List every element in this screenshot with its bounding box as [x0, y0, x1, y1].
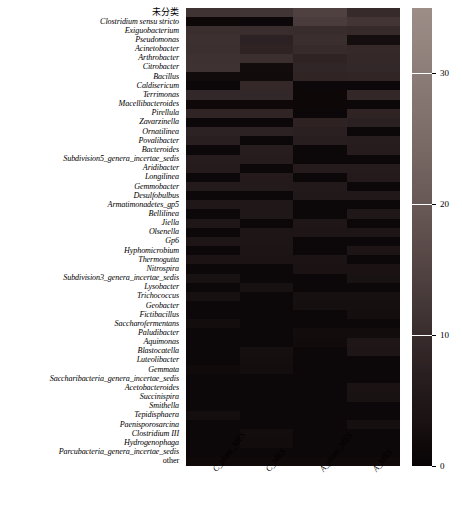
- heatmap-cell[interactable]: [347, 191, 401, 200]
- heatmap-cell[interactable]: [240, 54, 294, 63]
- heatmap-cell[interactable]: [240, 328, 294, 337]
- heatmap-cell[interactable]: [186, 145, 240, 154]
- heatmap-cell[interactable]: [186, 127, 240, 136]
- heatmap-cell[interactable]: [240, 109, 294, 118]
- heatmap-cell[interactable]: [293, 127, 347, 136]
- heatmap-cell[interactable]: [293, 338, 347, 347]
- heatmap-cell[interactable]: [186, 17, 240, 26]
- heatmap-cell[interactable]: [347, 374, 401, 383]
- heatmap-cell[interactable]: [186, 8, 240, 17]
- heatmap-cell[interactable]: [186, 383, 240, 392]
- heatmap-cell[interactable]: [186, 356, 240, 365]
- heatmap-cell[interactable]: [347, 164, 401, 173]
- heatmap-cell[interactable]: [240, 182, 294, 191]
- heatmap-cell[interactable]: [347, 383, 401, 392]
- heatmap-cell[interactable]: [293, 393, 347, 402]
- heatmap-cell[interactable]: [293, 402, 347, 411]
- heatmap-cell[interactable]: [293, 274, 347, 283]
- heatmap-cell[interactable]: [240, 17, 294, 26]
- heatmap-cell[interactable]: [293, 26, 347, 35]
- heatmap-cell[interactable]: [186, 347, 240, 356]
- heatmap-cell[interactable]: [347, 155, 401, 164]
- heatmap-cell[interactable]: [240, 356, 294, 365]
- heatmap-cell[interactable]: [240, 118, 294, 127]
- heatmap-cell[interactable]: [240, 219, 294, 228]
- heatmap-cell[interactable]: [293, 63, 347, 72]
- heatmap-cell[interactable]: [347, 420, 401, 429]
- heatmap-cell[interactable]: [240, 63, 294, 72]
- heatmap-cell[interactable]: [293, 35, 347, 44]
- heatmap-cell[interactable]: [347, 356, 401, 365]
- heatmap-cell[interactable]: [240, 228, 294, 237]
- heatmap-cell[interactable]: [240, 35, 294, 44]
- heatmap-cell[interactable]: [347, 35, 401, 44]
- heatmap-cell[interactable]: [347, 200, 401, 209]
- heatmap-cell[interactable]: [186, 109, 240, 118]
- heatmap-cell[interactable]: [347, 72, 401, 81]
- heatmap-cell[interactable]: [293, 310, 347, 319]
- heatmap-cell[interactable]: [347, 145, 401, 154]
- heatmap-cell[interactable]: [240, 319, 294, 328]
- heatmap-cell[interactable]: [293, 246, 347, 255]
- heatmap-cell[interactable]: [293, 264, 347, 273]
- heatmap-cell[interactable]: [293, 356, 347, 365]
- heatmap-cell[interactable]: [240, 81, 294, 90]
- heatmap-cell[interactable]: [240, 26, 294, 35]
- heatmap-cell[interactable]: [240, 420, 294, 429]
- heatmap-cell[interactable]: [347, 255, 401, 264]
- heatmap-cell[interactable]: [293, 136, 347, 145]
- heatmap-cell[interactable]: [186, 365, 240, 374]
- heatmap-cell[interactable]: [186, 35, 240, 44]
- heatmap-cell[interactable]: [186, 402, 240, 411]
- heatmap-cell[interactable]: [347, 173, 401, 182]
- heatmap-cell[interactable]: [186, 200, 240, 209]
- heatmap-cell[interactable]: [347, 310, 401, 319]
- heatmap-cell[interactable]: [293, 383, 347, 392]
- heatmap-cell[interactable]: [293, 237, 347, 246]
- heatmap-cell[interactable]: [240, 264, 294, 273]
- heatmap-cell[interactable]: [293, 347, 347, 356]
- heatmap-cell[interactable]: [240, 90, 294, 99]
- heatmap-cell[interactable]: [186, 191, 240, 200]
- heatmap-cell[interactable]: [293, 228, 347, 237]
- heatmap-cell[interactable]: [347, 81, 401, 90]
- heatmap-cell[interactable]: [186, 118, 240, 127]
- heatmap-cell[interactable]: [186, 219, 240, 228]
- heatmap-cell[interactable]: [240, 274, 294, 283]
- heatmap-cell[interactable]: [186, 26, 240, 35]
- heatmap-cell[interactable]: [186, 374, 240, 383]
- heatmap-cell[interactable]: [347, 264, 401, 273]
- heatmap-cell[interactable]: [293, 200, 347, 209]
- heatmap-cell[interactable]: [293, 255, 347, 264]
- heatmap-cell[interactable]: [186, 393, 240, 402]
- heatmap-cell[interactable]: [240, 438, 294, 447]
- heatmap-cell[interactable]: [240, 127, 294, 136]
- heatmap-cell[interactable]: [240, 200, 294, 209]
- heatmap-cell[interactable]: [186, 54, 240, 63]
- heatmap-grid[interactable]: [186, 8, 400, 466]
- heatmap-cell[interactable]: [186, 81, 240, 90]
- heatmap-cell[interactable]: [347, 118, 401, 127]
- heatmap-cell[interactable]: [347, 8, 401, 17]
- heatmap-cell[interactable]: [293, 301, 347, 310]
- heatmap-cell[interactable]: [347, 136, 401, 145]
- heatmap-cell[interactable]: [240, 72, 294, 81]
- heatmap-cell[interactable]: [293, 219, 347, 228]
- heatmap-cell[interactable]: [347, 292, 401, 301]
- heatmap-cell[interactable]: [293, 100, 347, 109]
- heatmap-cell[interactable]: [347, 26, 401, 35]
- heatmap-cell[interactable]: [240, 411, 294, 420]
- heatmap-cell[interactable]: [240, 402, 294, 411]
- heatmap-cell[interactable]: [240, 237, 294, 246]
- heatmap-cell[interactable]: [347, 228, 401, 237]
- heatmap-cell[interactable]: [240, 393, 294, 402]
- heatmap-cell[interactable]: [240, 173, 294, 182]
- heatmap-cell[interactable]: [293, 292, 347, 301]
- heatmap-cell[interactable]: [293, 365, 347, 374]
- heatmap-cell[interactable]: [186, 182, 240, 191]
- heatmap-cell[interactable]: [240, 374, 294, 383]
- heatmap-cell[interactable]: [293, 81, 347, 90]
- heatmap-cell[interactable]: [347, 54, 401, 63]
- heatmap-cell[interactable]: [186, 292, 240, 301]
- heatmap-cell[interactable]: [347, 328, 401, 337]
